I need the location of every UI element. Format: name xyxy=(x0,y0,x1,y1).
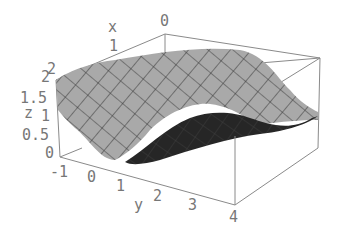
y-tick-1: 1 xyxy=(116,177,125,195)
y-tick-4: 4 xyxy=(229,208,238,226)
surface xyxy=(56,49,318,164)
y-tick-0: 0 xyxy=(87,168,96,186)
x-axis-label: x xyxy=(108,18,117,36)
z-tick-0: 0 xyxy=(45,144,54,162)
y-tick-neg1: -1 xyxy=(50,163,68,181)
z-tick-1: 1 xyxy=(41,107,50,125)
y-tick-3: 3 xyxy=(188,196,197,214)
y-tick-2: 2 xyxy=(153,187,162,205)
z-tick-2: 2 xyxy=(41,68,50,86)
z-tick-0-5: 0.5 xyxy=(22,126,49,144)
x-tick-1: 1 xyxy=(109,37,118,55)
z-axis-label: z xyxy=(24,104,33,122)
x-tick-0: 0 xyxy=(160,12,169,30)
y-axis-label: y xyxy=(134,196,143,214)
surface-plot: x 1 0 2 2 1.5 z 1 0.5 0 -1 0 1 2 y 3 4 xyxy=(0,0,344,231)
